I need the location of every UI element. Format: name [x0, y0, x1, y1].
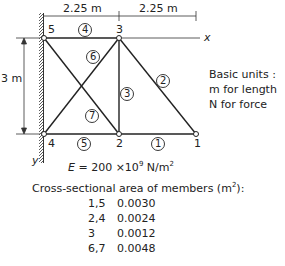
table-row: 3 0.0012 — [88, 227, 156, 242]
node-label-5: 5 — [48, 24, 55, 36]
dimension-height-label: 3 m — [1, 73, 22, 85]
member-label-5: 5 — [81, 138, 87, 150]
node-4 — [42, 132, 47, 137]
row-area: 0.0048 — [117, 242, 156, 257]
node-label-4: 4 — [48, 138, 55, 150]
basic-units-force: N for force — [209, 97, 277, 112]
member-label-6: 6 — [90, 51, 96, 63]
x-axis-label: x — [204, 32, 211, 44]
dimension-left-label: 2.25 m — [63, 3, 102, 15]
table-row: 6,7 0.0048 — [88, 242, 156, 257]
row-members: 6,7 — [88, 242, 117, 257]
modulus-symbol: E — [68, 161, 75, 174]
member-label-2: 2 — [160, 75, 166, 87]
area-table: 1,5 0.0030 2,4 0.0024 3 0.0012 6,7 0.004… — [88, 197, 156, 257]
row-area: 0.0012 — [117, 227, 156, 242]
basic-units-title: Basic units : — [209, 67, 277, 82]
elastic-modulus: E = 200 ×109 N/m2 — [68, 160, 174, 174]
node-3 — [117, 36, 122, 41]
row-members: 1,5 — [88, 197, 117, 212]
height-dimension — [16, 38, 40, 134]
node-label-3: 3 — [116, 24, 123, 36]
member-label-3: 3 — [124, 88, 130, 100]
row-members: 2,4 — [88, 212, 117, 227]
truss-nodes — [42, 36, 199, 137]
area-title-end: ): — [236, 182, 244, 195]
row-area: 0.0024 — [117, 212, 156, 227]
node-5 — [42, 36, 47, 41]
modulus-unit-exponent: 2 — [170, 160, 174, 168]
member-2 — [119, 38, 196, 134]
member-label-7: 7 — [89, 110, 95, 122]
truss-members — [44, 38, 196, 134]
node-1 — [194, 132, 199, 137]
area-section-title: Cross-sectional area of members (m2): — [32, 181, 244, 195]
node-label-1: 1 — [194, 138, 201, 150]
row-members: 3 — [88, 227, 117, 242]
member-label-4: 4 — [82, 24, 88, 36]
y-axis-label: y — [32, 155, 39, 167]
modulus-unit: N/m — [143, 161, 169, 174]
basic-units-length: m for length — [209, 82, 277, 97]
row-area: 0.0030 — [117, 197, 156, 212]
table-row: 2,4 0.0024 — [88, 212, 156, 227]
member-label-1: 1 — [155, 138, 161, 150]
area-title-text: Cross-sectional area of members (m — [32, 182, 232, 195]
modulus-value: = 200 ×10 — [75, 161, 139, 174]
node-2 — [117, 132, 122, 137]
dimension-right-label: 2.25 m — [139, 3, 178, 15]
basic-units-note: Basic units : m for length N for force — [209, 67, 277, 112]
table-row: 1,5 0.0030 — [88, 197, 156, 212]
node-label-2: 2 — [116, 138, 123, 150]
